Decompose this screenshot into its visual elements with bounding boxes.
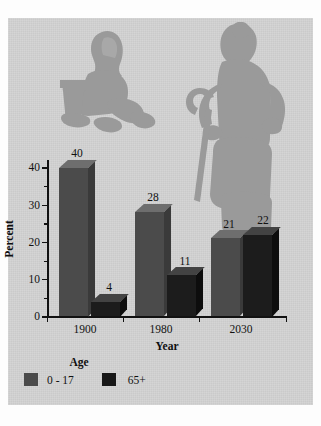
bar-1900-65plus: [91, 302, 120, 317]
y-tick-label-0: 0: [34, 310, 40, 322]
x-tick-2: [199, 317, 200, 322]
bar-side: [88, 160, 95, 317]
x-tick-right: [286, 317, 287, 322]
y-tick-minor-25: [44, 223, 47, 224]
bar-front: [59, 168, 88, 317]
legend: Age 0 - 17 65+: [24, 356, 214, 386]
bar-1900-0-17: [59, 168, 88, 317]
bar-1980-0-17: [135, 212, 164, 316]
y-tick-label-20: 20: [29, 236, 41, 248]
legend-items: 0 - 17 65+: [24, 373, 214, 386]
x-tick-1: [123, 317, 124, 322]
legend-title: Age: [24, 356, 134, 368]
data-label-1980-0-17: 28: [147, 191, 159, 203]
y-tick-30: [42, 205, 47, 206]
y-tick-40: [42, 167, 47, 168]
y-tick-label-40: 40: [29, 161, 41, 173]
legend-label-0-17: 0 - 17: [47, 374, 74, 386]
data-label-1900-0-17: 40: [71, 147, 83, 159]
bar-1980-65plus: [167, 275, 196, 316]
legend-swatch-0-17: [24, 373, 38, 386]
x-tick-label-1900: 1900: [74, 323, 97, 335]
y-tick-10: [42, 279, 47, 280]
x-axis-line: [47, 316, 287, 318]
bar-side: [196, 268, 203, 317]
y-tick-minor-15: [44, 261, 47, 262]
x-tick-left: [47, 317, 48, 322]
bar-front: [135, 212, 164, 316]
bar-2030-65plus: [243, 235, 272, 317]
data-label-1900-65plus: 4: [106, 281, 112, 293]
x-axis-title: Year: [156, 340, 179, 352]
x-tick-label-1980: 1980: [150, 323, 173, 335]
y-tick-label-30: 30: [29, 198, 41, 210]
x-tick-label-2030: 2030: [230, 323, 253, 335]
bar-front: [211, 238, 240, 316]
bar-front: [91, 302, 120, 317]
legend-label-65plus: 65+: [128, 374, 146, 386]
bar-2030-0-17: [211, 238, 240, 316]
figure-root: 0 10 20 30 40 1900 1980 2030 Year Percen…: [0, 0, 321, 426]
bar-side: [272, 227, 279, 317]
y-tick-label-10: 10: [29, 273, 41, 285]
bar-front: [243, 235, 272, 317]
y-tick-minor-35: [44, 186, 47, 187]
y-tick-minor-5: [44, 298, 47, 299]
data-label-1980-65plus: 11: [179, 255, 190, 267]
y-axis-title: Percent: [3, 220, 15, 257]
bar-front: [167, 275, 196, 316]
data-label-2030-65plus: 22: [257, 214, 269, 226]
y-axis-line: [47, 160, 49, 318]
legend-swatch-65plus: [102, 373, 116, 386]
y-tick-20: [42, 242, 47, 243]
data-label-2030-0-17: 21: [223, 218, 235, 230]
plot-area: 0 10 20 30 40 1900 1980 2030 Year Percen…: [47, 160, 287, 318]
